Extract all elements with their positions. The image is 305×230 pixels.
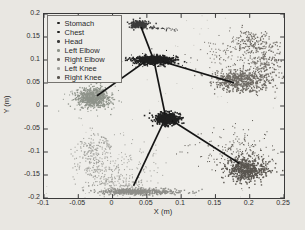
legend-marker-dot [57,31,60,34]
legend-item: Left Elbow [48,46,121,55]
legend-item: Right Knee [48,73,121,82]
y-tick-label: 0.2 [2,9,40,16]
plot-area: StomachChestHeadLeft ElbowRight ElbowLef… [43,13,285,199]
x-tick-label: -0.05 [69,199,85,206]
x-tick-label: 0 [110,199,114,206]
legend-item-label: Left Knee [65,64,97,73]
legend-marker-dot [57,40,60,43]
legend-item: Left Knee [48,64,121,73]
legend-marker-dot [57,49,60,52]
legend-item-label: Right Elbow [65,55,105,64]
legend: StomachChestHeadLeft ElbowRight ElbowLef… [47,15,122,83]
x-tick-label: 0.25 [276,199,290,206]
legend-item-label: Head [65,37,83,46]
x-tick-label: 0.05 [139,199,153,206]
legend-item: Right Elbow [48,55,121,64]
y-axis-label: Y (m) [2,85,11,125]
y-tick-label: -0.15 [2,170,40,177]
y-tick-label: -0.05 [2,124,40,131]
y-tick-label: 0.15 [2,32,40,39]
x-axis-label: X (m) [43,207,283,216]
y-tick-label: -0.2 [2,193,40,200]
legend-item: Chest [48,28,121,37]
legend-marker-dot [57,22,60,25]
y-tick-label: 0.1 [2,55,40,62]
legend-item-label: Left Elbow [65,46,100,55]
legend-marker-dot [57,67,60,70]
legend-item-label: Stomach [65,19,95,28]
y-tick-label: -0.1 [2,147,40,154]
legend-item: Stomach [48,19,121,28]
x-tick-label: 0.1 [175,199,185,206]
legend-marker-dot [57,76,60,79]
legend-marker-dot [57,58,60,61]
scatter-figure: StomachChestHeadLeft ElbowRight ElbowLef… [0,0,305,230]
legend-item-label: Right Knee [65,73,102,82]
x-tick-label: -0.1 [37,199,49,206]
x-tick-label: 0.2 [244,199,254,206]
y-tick-label: 0.05 [2,78,40,85]
legend-item-label: Chest [65,28,85,37]
x-tick-label: 0.15 [208,199,222,206]
legend-item: Head [48,37,121,46]
